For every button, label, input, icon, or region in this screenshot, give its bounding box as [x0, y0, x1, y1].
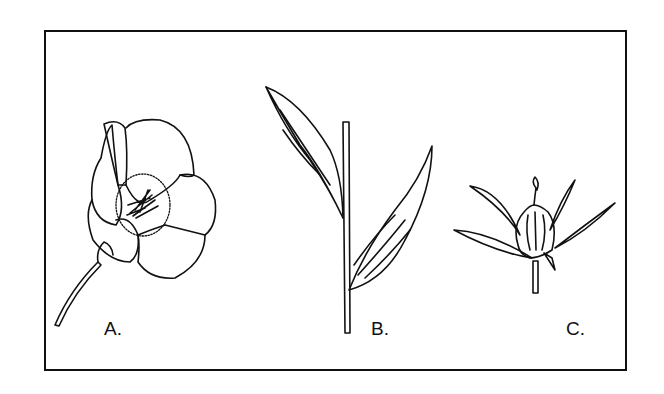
- botanical-illustration: [0, 0, 664, 394]
- panel-label-a: A.: [104, 318, 122, 340]
- panel-label-b: B.: [371, 318, 389, 340]
- fruit-drawing: [454, 177, 615, 293]
- panel-label-c: C.: [566, 318, 585, 340]
- leafy-stem-drawing: [266, 87, 432, 333]
- flower-drawing: [55, 120, 216, 326]
